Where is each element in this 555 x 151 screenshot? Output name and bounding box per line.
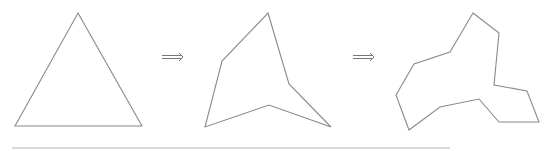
triangle-shape (15, 13, 142, 126)
polygon-transformation-diagram (0, 0, 555, 151)
hexagon-star-shape (205, 13, 331, 127)
dodecagon-star-shape (396, 13, 539, 130)
implies-arrow-icon (353, 53, 374, 61)
implies-arrow-icon (162, 53, 183, 61)
